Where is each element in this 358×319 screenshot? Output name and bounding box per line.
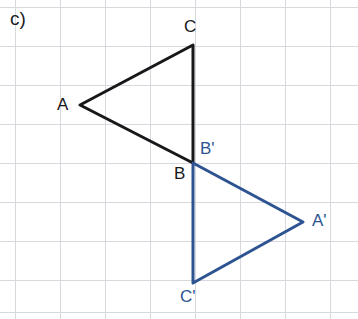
geometry-worksheet-canvas: c) A C B B' A' C' xyxy=(0,0,358,319)
vertex-label-b: B xyxy=(174,165,185,182)
triangle-abc-shape xyxy=(80,45,193,163)
vertex-label-a-prime: A' xyxy=(312,212,327,229)
vertex-label-a: A xyxy=(57,96,68,113)
vertex-label-b-prime: B' xyxy=(200,140,215,157)
problem-number-label: c) xyxy=(10,9,26,28)
figures-layer xyxy=(0,0,358,319)
triangle-a-prime-b-prime-c-prime-shape xyxy=(193,163,303,283)
vertex-label-c: C xyxy=(184,18,196,35)
vertex-label-c-prime: C' xyxy=(180,288,196,305)
